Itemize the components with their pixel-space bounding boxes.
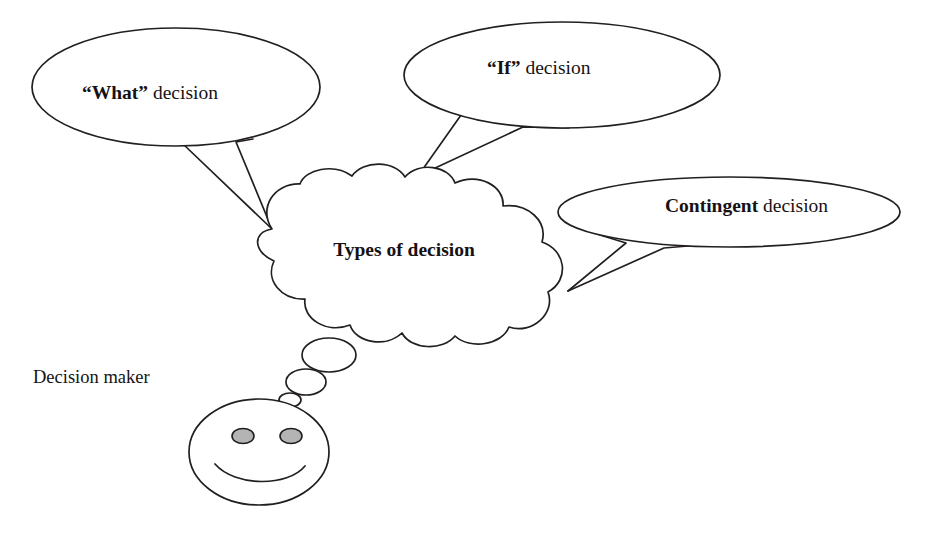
thought-bubble-trail [279, 338, 356, 407]
thought-bubble-medium [286, 369, 326, 395]
balloon-contingent: Contingent decision [558, 177, 900, 247]
balloon-what: “What” decision [32, 28, 320, 146]
balloon-if-emphasis: “If” [487, 57, 521, 78]
balloon-if-rest: decision [521, 57, 591, 78]
balloon-what-rest: decision [148, 82, 218, 103]
balloon-contingent-emphasis: Contingent [665, 195, 759, 216]
types-of-decision-diagram: Types of decision “What” decision “If” d… [0, 0, 936, 535]
face-eye-left [232, 429, 254, 444]
cloud-label: Types of decision [333, 239, 475, 260]
face-eye-right [280, 429, 302, 444]
balloon-contingent-label: Contingent decision [665, 195, 828, 216]
balloon-contingent-rest: decision [758, 195, 828, 216]
balloon-what-label: “What” decision [82, 82, 218, 103]
thought-cloud: Types of decision [258, 164, 563, 346]
balloon-what-emphasis: “What” [82, 82, 148, 103]
face-head [189, 399, 329, 505]
balloon-if-label: “If” decision [487, 57, 591, 78]
decision-maker-avatar [189, 399, 329, 505]
diagram-canvas: Types of decision “What” decision “If” d… [0, 0, 936, 535]
balloon-if: “If” decision [404, 22, 720, 128]
decision-maker-label: Decision maker [33, 367, 150, 387]
thought-bubble-large [302, 338, 356, 372]
